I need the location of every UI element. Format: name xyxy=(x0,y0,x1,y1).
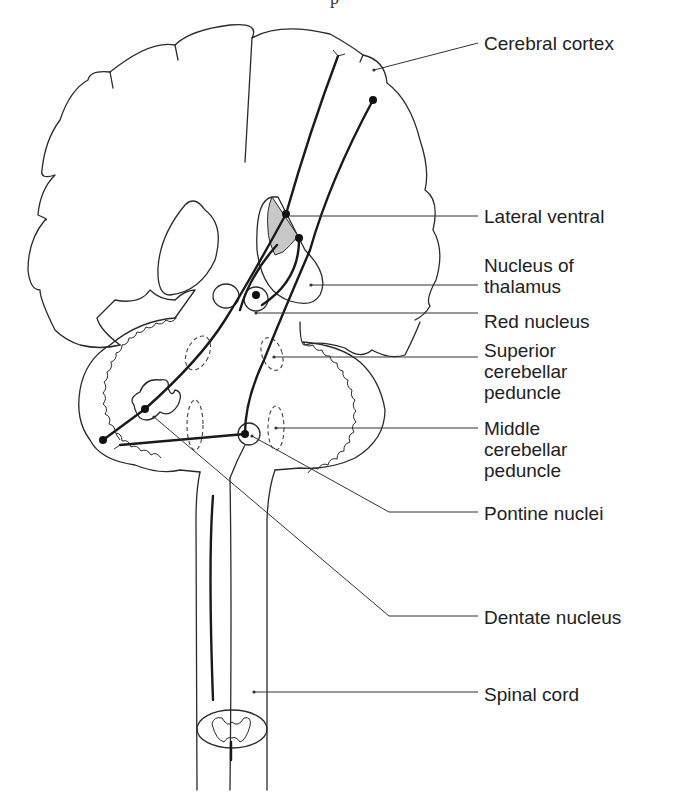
leader-lines xyxy=(152,43,478,694)
label-pontine-nuclei: Pontine nuclei xyxy=(484,503,603,524)
label-lateral-ventral: Lateral ventral xyxy=(484,206,604,227)
label-spinal-cord: Spinal cord xyxy=(484,684,579,705)
label-cerebral-cortex: Cerebral cortex xyxy=(484,33,614,54)
middle-peduncle-left xyxy=(187,400,203,450)
neural-tracts xyxy=(99,50,377,700)
brainstem-spinal-cord xyxy=(196,445,275,790)
label-nucleus-of-thalamus: Nucleus of thalamus xyxy=(484,255,574,297)
label-dentate-nucleus: Dentate nucleus xyxy=(484,607,621,628)
cerebellum-outline xyxy=(79,318,385,473)
label-red-nucleus: Red nucleus xyxy=(484,311,590,332)
label-middle-cerebellar-peduncle: Middle cerebellar peduncle xyxy=(484,418,567,481)
label-superior-cerebellar-peduncle: Superior cerebellar peduncle xyxy=(484,340,567,403)
superior-peduncle-left xyxy=(180,332,215,374)
